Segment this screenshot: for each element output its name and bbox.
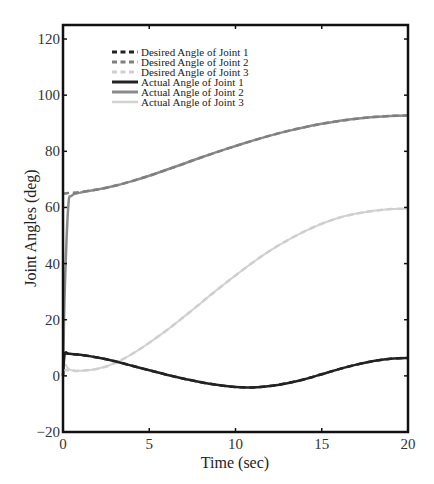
y-tick-label: 40 bbox=[45, 256, 60, 272]
x-axis-label: Time (sec) bbox=[201, 454, 269, 472]
legend: Desired Angle of Joint 1Desired Angle of… bbox=[112, 46, 249, 108]
y-tick-label: 0 bbox=[53, 368, 61, 384]
series-layer bbox=[63, 115, 408, 387]
series-line-2 bbox=[63, 115, 408, 193]
y-axis-label: Joint Angles (deg) bbox=[22, 169, 40, 286]
series-line-1 bbox=[63, 353, 408, 387]
series-line-5 bbox=[63, 115, 408, 376]
line-chart: 05101520−20020406080100120 Desired Angle… bbox=[0, 0, 434, 484]
x-tick-label: 20 bbox=[401, 436, 416, 452]
y-tick-label: 60 bbox=[45, 199, 60, 215]
y-tick-label: 20 bbox=[45, 312, 60, 328]
x-tick-label: 15 bbox=[314, 436, 329, 452]
y-tick-label: 100 bbox=[38, 87, 61, 103]
series-line-6 bbox=[63, 209, 408, 376]
x-tick-label: 5 bbox=[146, 436, 154, 452]
x-tick-label: 10 bbox=[228, 436, 243, 452]
series-line-3 bbox=[63, 209, 408, 371]
y-tick-label: −20 bbox=[37, 424, 60, 440]
legend-label: Actual Angle of Joint 3 bbox=[141, 96, 244, 108]
y-tick-label: 80 bbox=[45, 143, 60, 159]
x-tick-label: 0 bbox=[59, 436, 67, 452]
legend-item-6: Actual Angle of Joint 3 bbox=[112, 96, 244, 108]
series-line-4 bbox=[63, 352, 408, 387]
y-tick-label: 120 bbox=[38, 31, 61, 47]
